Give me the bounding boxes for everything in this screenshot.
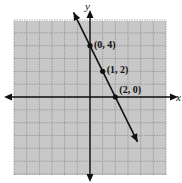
- x-axis-label: x: [175, 91, 181, 103]
- point-label: (0, 4): [94, 39, 116, 51]
- y-axis-label: y: [84, 0, 90, 12]
- point-label: (1, 2): [107, 64, 129, 76]
- data-point: [87, 43, 92, 48]
- data-point: [100, 69, 105, 74]
- point-label: (2, 0): [119, 84, 141, 96]
- coordinate-plane: x y (0, 4)(1, 2)(2, 0): [0, 0, 182, 183]
- data-point: [113, 94, 118, 99]
